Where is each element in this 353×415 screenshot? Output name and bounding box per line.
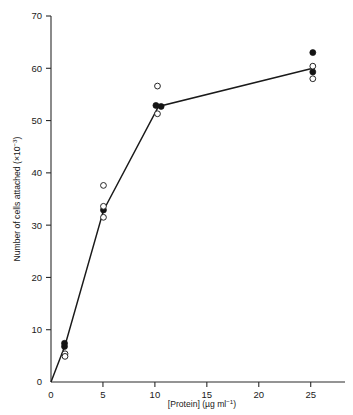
data-point <box>62 343 68 349</box>
data-point <box>310 69 316 75</box>
data-point <box>155 111 161 117</box>
series-open-circle <box>62 63 316 359</box>
y-tick-label: 0 <box>37 376 42 387</box>
x-tick-label: 20 <box>253 389 264 400</box>
data-point <box>310 50 316 56</box>
data-point <box>310 63 316 69</box>
scatter-chart: 010203040506070 0510152025 [Protein] (µg… <box>0 0 353 415</box>
y-tick-label: 40 <box>31 167 42 178</box>
data-point <box>155 83 161 89</box>
y-tick-label: 70 <box>31 10 42 21</box>
x-tick-label: 5 <box>100 389 105 400</box>
series-filled-circle <box>62 50 316 350</box>
y-tick-label: 10 <box>31 324 42 335</box>
data-point <box>158 103 164 109</box>
data-point <box>62 353 68 359</box>
y-tick-label: 30 <box>31 220 42 231</box>
y-axis-title-group: Number of cells attached (×10−3) <box>11 136 23 261</box>
y-tick-label: 60 <box>31 63 42 74</box>
data-point <box>101 203 107 209</box>
x-axis-title-group: [Protein] (µg ml−1) <box>168 398 237 410</box>
x-axis-title: [Protein] (µg ml−1) <box>168 398 237 410</box>
x-tick-label: 0 <box>48 389 53 400</box>
x-axis-ticks: 0510152025 <box>48 382 316 400</box>
response-curve <box>51 68 313 382</box>
figure-container: 010203040506070 0510152025 [Protein] (µg… <box>0 0 353 415</box>
y-axis-title: Number of cells attached (×10−3) <box>11 136 23 261</box>
fit-line-group <box>51 68 313 382</box>
data-points-group <box>62 50 316 360</box>
x-tick-label: 10 <box>150 389 161 400</box>
data-point <box>101 214 107 220</box>
y-tick-label: 20 <box>31 272 42 283</box>
y-axis-ticks: 010203040506070 <box>31 10 51 387</box>
data-point <box>101 183 107 189</box>
y-tick-label: 50 <box>31 115 42 126</box>
data-point <box>310 76 316 82</box>
x-tick-label: 25 <box>305 389 316 400</box>
